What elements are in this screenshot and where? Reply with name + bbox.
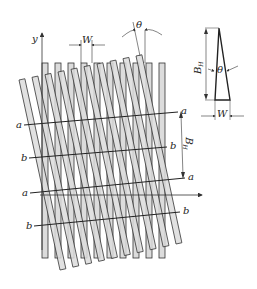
- diagram-canvas: aabbaabb y W θ BH: [0, 0, 257, 289]
- inset-theta-arrow-left: [208, 69, 214, 71]
- w-label: W: [82, 34, 93, 45]
- theta-label: θ: [136, 19, 142, 30]
- line-label-a: a: [16, 119, 22, 130]
- inset-arrow-down: [204, 94, 208, 100]
- inset-triangle: BH θ W: [192, 28, 244, 120]
- line-label-b: b: [21, 152, 27, 163]
- line-label-b: b: [170, 140, 176, 151]
- inset-arrow-up: [204, 28, 208, 34]
- inset-height-label: B: [192, 67, 203, 75]
- moire-diagram: aabbaabb y W θ BH: [0, 0, 257, 289]
- inset-w-label: W: [217, 108, 228, 119]
- y-axis-label: y: [31, 33, 38, 44]
- bh-label: BH: [182, 136, 195, 151]
- inset-theta-arrow-right: [227, 66, 238, 71]
- line-label-b: b: [26, 220, 32, 231]
- inset-theta-label: θ: [217, 64, 223, 75]
- svg-text:BH: BH: [182, 136, 195, 151]
- line-label-a: a: [22, 187, 28, 198]
- line-label-a: a: [188, 171, 194, 182]
- svg-text:BH: BH: [192, 61, 204, 75]
- line-label-b: b: [183, 205, 189, 216]
- theta-arc-left: [122, 30, 135, 37]
- theta-arc-right: [145, 30, 162, 35]
